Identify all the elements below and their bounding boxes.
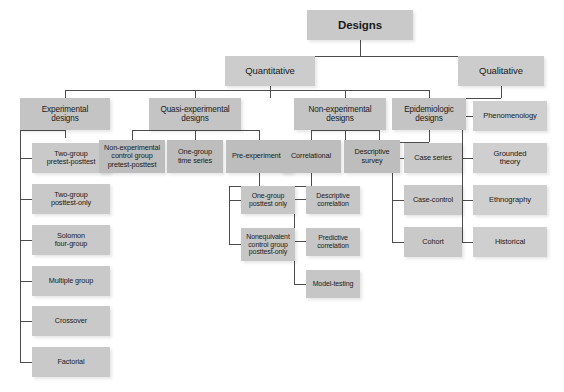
node-case-control[interactable]: Case-control — [404, 185, 462, 215]
node-cohort[interactable]: Cohort — [404, 227, 462, 257]
connector-nonexp-bus — [311, 130, 379, 131]
connector-quantitative-stem — [270, 86, 271, 98]
connector-preexp-c1 — [229, 200, 241, 201]
node-case-series[interactable]: Case series — [404, 143, 462, 173]
connector-nonexp-c2 — [379, 130, 380, 140]
connector-experimental-stem — [65, 130, 66, 138]
node-non-experimental-designs[interactable]: Non-experimental designs — [294, 98, 386, 130]
node-two-group-posttest-only[interactable]: Two-group posttest-only — [32, 184, 110, 214]
connector-quasi-c2 — [195, 130, 196, 140]
connector-qual-c3 — [462, 200, 473, 201]
connector-experimental-down — [65, 90, 66, 98]
node-qualitative[interactable]: Qualitative — [458, 56, 544, 86]
node-one-group-time-series[interactable]: One-group time series — [167, 140, 223, 173]
connector-nonexp-down — [345, 90, 346, 98]
connector-qual-c2 — [462, 158, 473, 159]
node-solomon-four-group[interactable]: Solomon four-group — [32, 225, 110, 255]
connector-quasi-c1 — [132, 130, 133, 140]
connector-qual-c4 — [462, 242, 473, 243]
connector-exp-child-4 — [20, 281, 32, 282]
node-grounded-theory[interactable]: Grounded theory — [473, 143, 547, 173]
connector-root-down — [360, 40, 361, 56]
node-descriptive-survey[interactable]: Descriptive survey — [344, 140, 400, 173]
connector-quasi-c3 — [259, 130, 260, 140]
diagram-canvas: Designs Quantitative Qualitative Experim… — [0, 0, 564, 392]
connector-preexp-stem — [259, 173, 260, 186]
connector-epi-c2 — [392, 200, 404, 201]
connector-corr-c2 — [294, 241, 306, 242]
connector-epi-c3 — [392, 242, 404, 243]
node-historical[interactable]: Historical — [473, 227, 547, 257]
node-multiple-group[interactable]: Multiple group — [32, 266, 110, 296]
node-predictive-correlation[interactable]: Predictive correlation — [306, 228, 360, 256]
connector-exp-child-2 — [20, 199, 32, 200]
node-quasi-experimental-designs[interactable]: Quasi-experimental designs — [149, 98, 241, 130]
connector-epi-stem — [429, 130, 430, 142]
node-descriptive-correlation[interactable]: Descriptive correlation — [306, 186, 360, 214]
connector-preexp-spine — [229, 186, 230, 244]
connector-level2-bus — [65, 90, 429, 91]
connector-exp-child-5 — [20, 321, 32, 322]
node-epidemiologic-designs[interactable]: Epidemiologic designs — [392, 98, 466, 130]
connector-exp-child-3 — [20, 240, 32, 241]
connector-nonexp-c1 — [311, 130, 312, 140]
connector-experimental-top — [20, 130, 65, 131]
node-factorial[interactable]: Factorial — [32, 347, 110, 377]
node-ethnography[interactable]: Ethnography — [473, 185, 547, 215]
node-nonexperimental-control-group-pretest-posttest[interactable]: Non-experimental control group pretest-p… — [99, 140, 165, 173]
connector-exp-child-1 — [20, 158, 32, 159]
node-phenomenology[interactable]: Phenomenology — [473, 101, 547, 131]
connector-epi-down — [429, 90, 430, 98]
connector-corr-stem — [311, 173, 312, 186]
node-nonequivalent-control-group-posttest-only[interactable]: Nonequivalent control group posttest-onl… — [241, 228, 295, 261]
connector-nonexp-stem — [345, 130, 346, 140]
connector-quasi-down — [195, 90, 196, 98]
connector-experimental-spine — [20, 130, 21, 362]
node-correlational[interactable]: Correlational — [281, 140, 341, 173]
node-designs[interactable]: Designs — [307, 10, 413, 40]
connector-corr-c3 — [294, 284, 306, 285]
connector-exp-child-6 — [20, 362, 32, 363]
node-model-testing[interactable]: Model-testing — [306, 270, 360, 298]
connector-qual-top — [462, 98, 501, 99]
connector-qual-stem — [501, 86, 502, 98]
node-crossover[interactable]: Crossover — [32, 306, 110, 336]
connector-preexp-c2 — [229, 244, 241, 245]
node-experimental-designs[interactable]: Experimental designs — [20, 98, 110, 130]
node-one-group-posttest-only[interactable]: One-group posttest only — [241, 186, 295, 214]
connector-corr-c1 — [294, 199, 306, 200]
node-quantitative[interactable]: Quantitative — [225, 56, 315, 86]
